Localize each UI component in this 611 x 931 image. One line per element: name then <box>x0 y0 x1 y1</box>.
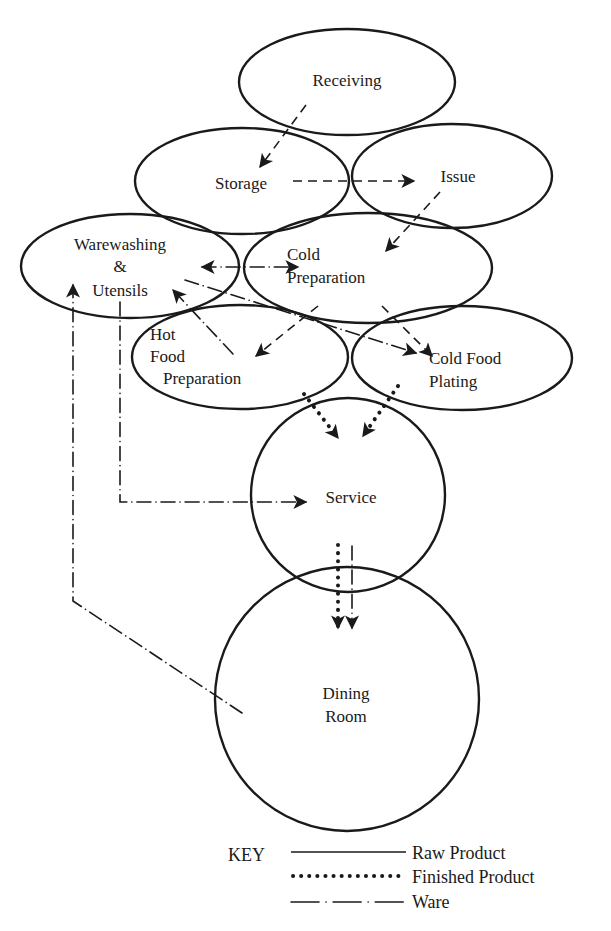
area-dining-room: Dining Room <box>215 567 479 831</box>
legend-finished-product: Finished Product <box>412 867 535 887</box>
svg-text:Hot: Hot <box>150 325 176 344</box>
svg-text:Dining: Dining <box>322 684 370 703</box>
area-service: Service <box>251 398 445 592</box>
svg-text:Room: Room <box>325 707 367 726</box>
svg-text:&: & <box>113 257 126 276</box>
svg-text:Preparation: Preparation <box>163 369 242 388</box>
svg-text:Utensils: Utensils <box>92 281 148 300</box>
svg-text:Plating: Plating <box>429 372 478 391</box>
area-hot-food-preparation: Hot Food Preparation <box>132 305 348 409</box>
svg-text:Preparation: Preparation <box>287 268 366 287</box>
legend: KEY Raw Product Finished Product Ware <box>228 843 535 912</box>
legend-raw-product: Raw Product <box>412 843 506 863</box>
flow-hotfood-warewashing <box>173 290 233 354</box>
flow-coldprep-hotfood <box>256 306 318 356</box>
label-issue: Issue <box>441 167 476 186</box>
area-warewashing: Warewashing & Utensils <box>21 214 239 318</box>
svg-text:Cold: Cold <box>287 245 321 264</box>
svg-text:Service: Service <box>326 488 377 507</box>
flow-warewashing-coldplating <box>185 280 416 353</box>
svg-text:Warewashing: Warewashing <box>74 235 167 254</box>
legend-title: KEY <box>228 845 265 865</box>
legend-ware: Ware <box>412 892 450 912</box>
flow-diagram: Receiving Storage Issue Warewashing & Ut… <box>0 0 611 931</box>
svg-text:Food: Food <box>150 347 185 366</box>
label-receiving: Receiving <box>313 71 382 90</box>
area-cold-food-plating: Cold Food Plating <box>352 306 572 410</box>
svg-text:Cold Food: Cold Food <box>429 349 502 368</box>
label-storage: Storage <box>215 174 267 193</box>
area-receiving: Receiving <box>239 29 455 135</box>
